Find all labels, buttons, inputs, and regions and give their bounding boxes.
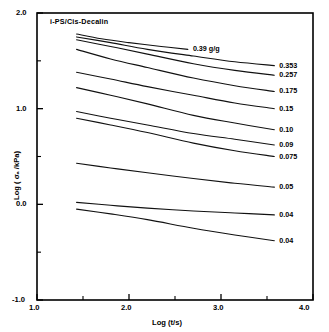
x-tick-label: 2.0: [121, 303, 132, 312]
series-curve: [77, 49, 275, 91]
series-curve: [77, 72, 275, 108]
series-end-label: 0.09: [279, 140, 293, 149]
plot-canvas: [0, 0, 329, 332]
series-curve: [77, 163, 275, 187]
y-tick-label: 1.0: [16, 104, 27, 113]
series-end-label: 0.257: [279, 70, 297, 79]
series-end-label: 0.04: [279, 236, 293, 245]
chart-figure: i-PS/Cis-Decalin Log (t/s) Log ( σₐ /kPa…: [0, 0, 329, 332]
x-tick-label: 4.0: [299, 303, 310, 312]
x-tick-label: 1.0: [29, 303, 40, 312]
y-tick-label: 2.0: [16, 8, 27, 17]
series-curve: [77, 88, 275, 130]
series-end-label: 0.353: [279, 61, 297, 70]
y-tick-label: 0.0: [16, 199, 27, 208]
chart-title: i-PS/Cis-Decalin: [50, 17, 108, 26]
y-axis-label: Log ( σₐ /kPa): [12, 151, 21, 200]
series-end-label: 0.39 g/g: [193, 44, 220, 53]
series-end-label: 0.15: [279, 104, 293, 113]
x-axis-label: Log (t/s): [152, 318, 182, 327]
series-end-label: 0.175: [279, 86, 297, 95]
series-end-label: 0.10: [279, 125, 293, 134]
series-end-label: 0.075: [279, 152, 297, 161]
y-tick-label: -1.0: [12, 295, 25, 304]
series-end-label: 0.05: [279, 182, 293, 191]
series-curve: [77, 118, 275, 156]
series-curve: [77, 112, 275, 145]
series-end-label: 0.04: [279, 210, 293, 219]
x-tick-label: 3.0: [213, 303, 224, 312]
series-curve: [77, 37, 275, 66]
